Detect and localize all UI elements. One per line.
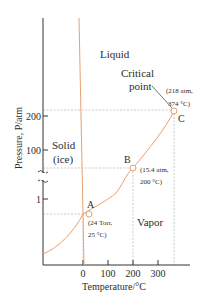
xtick-label-200: 200 [126,268,141,279]
y-axis-title: Pressure, P/atm [13,107,24,169]
xtick-label-0: 0 [81,268,86,279]
point-a-note-2: 25 °C) [88,231,107,239]
solid-liquid-boundary [79,18,84,265]
points [86,108,177,217]
point-c-note-2: 374 °C) [168,100,191,108]
point-a-marker [86,211,92,217]
critical-point-label-2: point [129,80,152,92]
point-c-marker [171,108,177,114]
region-ice-label: (ice) [53,153,73,166]
critical-point-label-1: Critical [121,67,154,79]
point-b-marker [130,165,136,171]
region-solid-label: Solid [52,139,76,151]
ytick-label-200: 200 [26,111,41,122]
region-vapor-label: Vapor [137,216,164,228]
point-b-label: B [124,154,131,165]
xtick-label-300: 300 [151,268,166,279]
ytick-label-1: 1 [36,194,41,205]
xtick-label-100: 100 [101,268,116,279]
guide-lines [43,110,174,265]
x-axis-title: Temperature/°C [82,281,146,292]
point-c-label: C [178,113,185,124]
region-liquid-label: Liquid [100,48,130,60]
point-b-note-2: 200 °C) [140,178,163,186]
point-c-note-1: (218 atm, [166,87,193,95]
point-b-note-1: (15.4 atm, [140,166,169,174]
point-a-note-1: (24 Torr, [88,219,113,227]
axis-break-icon [38,171,48,183]
phase-diagram: Liquid Critical point (218 atm, 374 °C) … [0,0,210,306]
point-a-label: A [87,199,95,210]
ytick-label-100: 100 [26,145,41,156]
